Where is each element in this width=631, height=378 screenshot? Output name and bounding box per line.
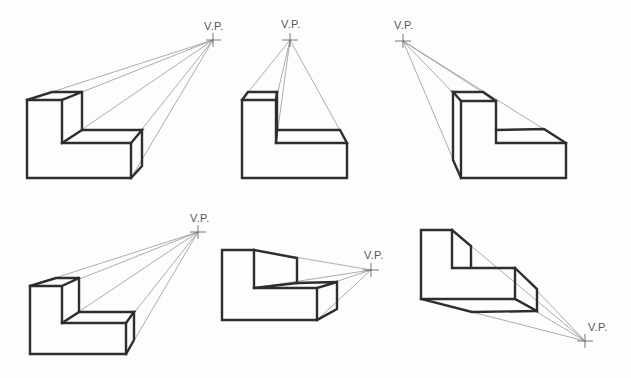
l-block — [30, 278, 134, 354]
l-block — [453, 92, 566, 178]
l-block — [27, 92, 142, 178]
projection-lines — [421, 230, 585, 341]
figure-2 — [242, 33, 347, 178]
vp-label: V.P. — [364, 249, 384, 261]
projection-lines — [30, 232, 198, 354]
projection-lines — [27, 40, 213, 178]
figure-1 — [27, 33, 221, 178]
figure-3 — [395, 34, 566, 178]
figure-6 — [421, 230, 593, 348]
vp-label: V.P. — [190, 212, 210, 224]
projection-lines — [403, 41, 566, 178]
l-block — [222, 250, 337, 320]
vp-label: V.P. — [281, 18, 301, 30]
figure-5 — [222, 250, 379, 320]
vp-label: V.P. — [588, 321, 608, 333]
figure-4 — [30, 225, 206, 354]
l-block — [242, 92, 347, 178]
vp-label: V.P. — [394, 19, 414, 31]
diagram-svg — [0, 0, 631, 378]
l-block — [421, 230, 537, 312]
vp-label: V.P. — [204, 20, 224, 32]
perspective-diagram: V.P. V.P. V.P. V.P. V.P. V.P. — [0, 0, 631, 378]
